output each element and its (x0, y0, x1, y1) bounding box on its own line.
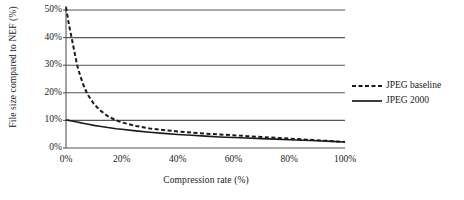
series-line-jpeg-2000 (66, 120, 345, 142)
x-axis-tick-label: 80% (266, 154, 312, 164)
legend-label: JPEG baseline (386, 80, 441, 91)
x-axis-title: Compression rate (%) (66, 175, 346, 185)
chart-figure: File size compared to NEF (%) 0%10%20%30… (0, 0, 464, 200)
legend-swatch-dashed-icon (352, 81, 382, 91)
legend-item: JPEG 2000 (352, 93, 441, 108)
legend-label: JPEG 2000 (386, 95, 429, 106)
x-axis-tick-label: 60% (210, 154, 256, 164)
x-axis-tick-label: 100% (322, 154, 368, 164)
chart-legend: JPEG baselineJPEG 2000 (352, 78, 441, 108)
legend-item: JPEG baseline (352, 78, 441, 93)
x-axis-tick-label: 20% (99, 154, 145, 164)
legend-swatch-solid-icon (352, 96, 382, 106)
x-axis-tick-label: 0% (43, 154, 89, 164)
x-axis-tick-label: 40% (155, 154, 201, 164)
series-line-jpeg-baseline (66, 7, 345, 142)
